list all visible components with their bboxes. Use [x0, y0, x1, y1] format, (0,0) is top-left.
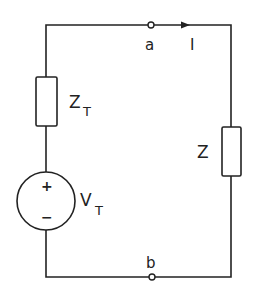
circuit-svg: a b I Z T V T + − Z [0, 0, 253, 295]
impedance-z [222, 127, 241, 176]
current-label: I [190, 36, 194, 54]
zt-label: Z [69, 92, 81, 112]
vt-subscript: T [94, 203, 103, 218]
terminal-b-label: b [146, 254, 156, 272]
minus-sign: − [41, 209, 53, 225]
wire-top-left [46, 25, 148, 77]
wire-bottom-left [46, 230, 149, 277]
plus-sign: + [41, 178, 53, 194]
terminal-a-icon [148, 22, 154, 28]
wire-bottom-right [155, 176, 231, 277]
terminal-b-icon [149, 274, 155, 280]
z-label: Z [197, 142, 209, 162]
current-arrow-icon [181, 22, 190, 29]
terminal-a-label: a [145, 36, 154, 54]
impedance-zt [36, 77, 57, 126]
vt-label: V [80, 190, 92, 210]
circuit-diagram: a b I Z T V T + − Z [0, 0, 253, 295]
zt-subscript: T [82, 104, 91, 119]
